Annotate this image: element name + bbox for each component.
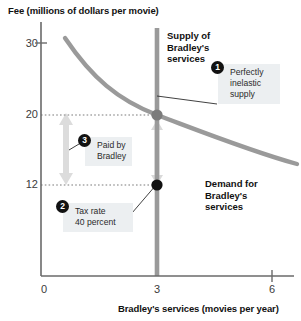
callout-perfectly-inelastic-supply: Perfectly inelastic supply — [218, 64, 280, 104]
callout-3-line-1: Paid by — [97, 140, 127, 151]
x-tick-3: 3 — [147, 283, 167, 295]
tax-wedge-arrow — [151, 120, 163, 185]
x-axis-title: Bradley's services (movies per year) — [118, 303, 279, 314]
paid-by-bradley-arrow — [59, 113, 73, 185]
demand-curve-label: Demand for Bradley's services — [205, 178, 258, 213]
demand-curve-label-line-3: services — [205, 201, 258, 213]
y-axis-title: Fee (millions of dollars per movie) — [8, 5, 159, 16]
callout-2-line-1: Tax rate — [75, 206, 128, 217]
x-tick-0: 0 — [34, 283, 54, 295]
x-tick-6: 6 — [262, 283, 282, 295]
callout-3-line-2: Bradley — [97, 151, 127, 162]
supply-curve-label-line-2: Bradley's — [167, 42, 210, 54]
callout-tax-rate: Tax rate 40 percent — [63, 203, 133, 232]
supply-curve-label: Supply of Bradley's services — [167, 30, 210, 65]
supply-curve-label-line-1: Supply of — [167, 30, 210, 42]
demand-curve-label-line-2: Bradley's — [205, 190, 258, 202]
callout-paid-by-bradley: Paid by Bradley — [85, 137, 132, 166]
leader-line-callout-2 — [132, 185, 156, 213]
y-tick-20: 20 — [12, 108, 38, 120]
leader-line-callout-1 — [157, 96, 217, 104]
net-of-tax-point-dot — [151, 179, 162, 190]
callout-2-line-2: 40 percent — [75, 217, 128, 228]
callout-1-line-3: supply — [230, 89, 275, 100]
supply-demand-chart: Fee (millions of dollars per movie) Brad… — [0, 0, 301, 321]
callout-badge-3: 3 — [78, 134, 91, 147]
callout-badge-1: 1 — [211, 61, 224, 74]
callout-1-line-1: Perfectly — [230, 67, 275, 78]
callout-badge-2: 2 — [56, 200, 69, 213]
chart-canvas — [0, 0, 301, 321]
y-tick-12: 12 — [12, 178, 38, 190]
supply-curve-label-line-3: services — [167, 53, 210, 65]
callout-1-line-2: inelastic — [230, 78, 275, 89]
demand-curve-label-line-1: Demand for — [205, 178, 258, 190]
equilibrium-point-dot — [151, 109, 162, 120]
y-tick-30: 30 — [12, 37, 38, 49]
